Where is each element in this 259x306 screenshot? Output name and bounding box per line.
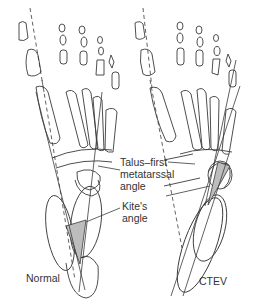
label-kites-angle: Kite's angle [122,200,148,224]
foot-diagram [0,0,259,306]
label-normal: Normal [26,272,60,284]
label-talus-first-metatarsal-angle: Talus–first metatarssal angle [120,156,174,192]
label-ctev: CTEV [199,275,227,287]
leader-talus [98,166,120,170]
leader-kite [86,208,120,222]
ctev-foot [135,8,240,297]
normal-foot [19,8,119,298]
